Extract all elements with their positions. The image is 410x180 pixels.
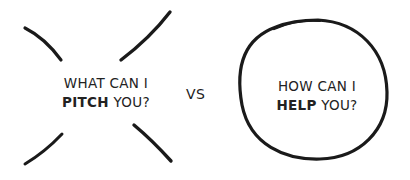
help-bold-word: HELP [276,97,316,113]
pitch-bold-word: PITCH [62,94,109,110]
pitch-rest: YOU? [109,94,150,110]
pitch-line-2: PITCH YOU? [50,93,162,112]
help-rest: YOU? [317,97,358,113]
pitch-question: WHAT CAN I PITCH YOU? [50,74,162,112]
vs-label: VS [186,86,205,102]
help-question: HOW CAN I HELP YOU? [263,77,371,115]
help-line-2: HELP YOU? [263,96,371,115]
help-line-1: HOW CAN I [263,77,371,96]
pitch-line-1: WHAT CAN I [50,74,162,93]
